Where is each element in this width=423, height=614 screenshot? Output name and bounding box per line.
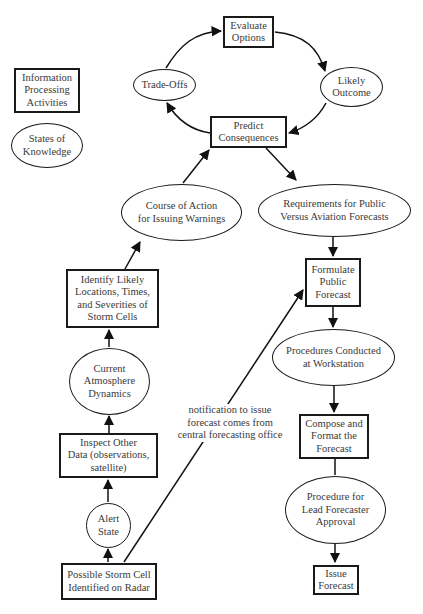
legend-knowledge-ellipse: States of Knowledge	[11, 123, 83, 168]
legend-activity-box: Information Processing Activities	[14, 68, 80, 113]
node-label: Evaluate Options	[230, 20, 267, 45]
node-label: Trade-Offs	[141, 79, 187, 92]
node-label: Requirements for Public Versus Aviation …	[280, 198, 388, 223]
node-possible-storm-cell: Possible Storm Cell Identified on Radar	[61, 563, 157, 600]
node-label: Alert State	[98, 513, 120, 538]
notification-annotation: notification to issue forecast comes fro…	[172, 404, 288, 442]
node-procedures-conducted: Procedures Conducted at Workstation	[272, 329, 395, 386]
node-label: Issue Forecast	[318, 568, 354, 593]
node-formulate-public-forecast: Formulate Public Forecast	[305, 258, 361, 307]
node-inspect-other-data: Inspect Other Data (observations, satell…	[59, 433, 158, 478]
node-identify-likely: Identify Likely Locations, Times, and Se…	[66, 269, 159, 328]
edge-course-to-predict	[183, 150, 209, 183]
node-trade-offs: Trade-Offs	[133, 69, 196, 101]
edge-identify-to-course	[125, 242, 140, 269]
edge-tradeoffs-to-evaluate	[166, 31, 221, 68]
node-label: Current Atmosphere Dynamics	[84, 363, 135, 401]
edge-evaluate-to-outcome	[275, 32, 325, 71]
node-alert-state: Alert State	[86, 503, 131, 548]
node-label: Procedure for Lead Forecaster Approval	[302, 491, 369, 529]
node-issue-forecast: Issue Forecast	[313, 565, 359, 595]
node-label: Course of Action for Issuing Warnings	[138, 200, 226, 225]
node-label: Inspect Other Data (observations, satell…	[68, 437, 150, 475]
edge-predict-to-requirements	[266, 148, 296, 180]
node-lead-forecaster-approval: Procedure for Lead Forecaster Approval	[285, 476, 386, 544]
node-evaluate-options: Evaluate Options	[223, 16, 274, 48]
legend-activity-label: Information Processing Activities	[22, 72, 72, 110]
node-current-atmosphere: Current Atmosphere Dynamics	[69, 348, 150, 415]
node-label: Identify Likely Locations, Times, and Se…	[75, 274, 150, 324]
node-label: Procedures Conducted at Workstation	[286, 345, 381, 370]
node-predict-consequences: Predict Consequences	[210, 116, 287, 148]
edge-outcome-to-predict	[289, 103, 326, 133]
node-requirements: Requirements for Public Versus Aviation …	[258, 184, 411, 237]
node-compose-format: Compose and Format the Forecast	[299, 414, 369, 459]
node-label: Likely Outcome	[332, 75, 371, 100]
node-label: Compose and Format the Forecast	[305, 418, 362, 456]
node-likely-outcome: Likely Outcome	[320, 67, 383, 107]
node-label: Possible Storm Cell Identified on Radar	[67, 569, 150, 594]
node-label: Predict Consequences	[218, 120, 278, 145]
edge-predict-to-tradeoffs	[167, 103, 210, 133]
node-label: Formulate Public Forecast	[311, 264, 354, 302]
annotation-text: notification to issue forecast comes fro…	[178, 404, 283, 440]
legend-knowledge-label: States of Knowledge	[23, 133, 71, 158]
node-course-of-action: Course of Action for Issuing Warnings	[121, 184, 242, 241]
